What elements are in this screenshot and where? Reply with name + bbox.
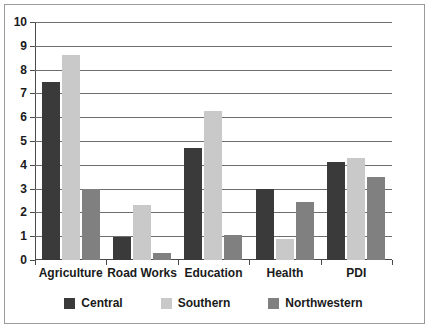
legend-item-northwestern[interactable]: Northwestern: [268, 297, 362, 309]
y-axis-tick-label: 9: [20, 40, 27, 52]
chart-legend: CentralSouthernNorthwestern: [35, 297, 392, 309]
bar-group-bars: [35, 22, 106, 260]
x-axis-tick: [106, 260, 107, 265]
bar-northwestern[interactable]: [153, 253, 171, 260]
legend-swatch-icon: [268, 298, 279, 309]
x-axis-tick: [392, 260, 393, 265]
bar-northwestern[interactable]: [296, 202, 314, 260]
chart-frame: 012345678910 AgricultureRoad WorksEducat…: [4, 4, 425, 324]
bar-central[interactable]: [113, 237, 131, 260]
bar-group-bars: [249, 22, 320, 260]
bar-central[interactable]: [184, 148, 202, 260]
legend-item-label: Southern: [178, 297, 231, 309]
y-axis-tick-label: 0: [20, 254, 27, 266]
bar-central[interactable]: [327, 162, 345, 260]
bar-group: PDI: [321, 22, 392, 260]
bar-central[interactable]: [42, 82, 60, 261]
bar-northwestern[interactable]: [224, 235, 242, 260]
legend-item-southern[interactable]: Southern: [161, 297, 231, 309]
x-axis-label: Education: [184, 267, 242, 279]
bar-northwestern[interactable]: [82, 189, 100, 260]
y-axis-tick-label: 7: [20, 87, 27, 99]
bar-southern[interactable]: [347, 158, 365, 260]
legend-item-label: Central: [81, 297, 122, 309]
x-axis-tick: [178, 260, 179, 265]
x-axis-tick: [321, 260, 322, 265]
y-axis-tick-label: 10: [14, 16, 27, 28]
legend-item-central[interactable]: Central: [64, 297, 122, 309]
y-axis-tick-label: 1: [20, 230, 27, 242]
plot-region: 012345678910 AgricultureRoad WorksEducat…: [35, 22, 392, 260]
x-axis-label: Agriculture: [39, 267, 103, 279]
x-axis-label: PDI: [346, 267, 366, 279]
bar-central[interactable]: [256, 189, 274, 260]
y-axis-tick-label: 6: [20, 111, 27, 123]
bar-group: Agriculture: [35, 22, 106, 260]
legend-swatch-icon: [161, 298, 172, 309]
y-axis-tick-label: 3: [20, 183, 27, 195]
y-axis-tick-label: 5: [20, 135, 27, 147]
bar-group-bars: [106, 22, 177, 260]
bar-northwestern[interactable]: [367, 177, 385, 260]
x-axis-label: Road Works: [107, 267, 177, 279]
y-axis-tick-label: 2: [20, 206, 27, 218]
legend-item-label: Northwestern: [285, 297, 362, 309]
x-axis-tick: [35, 260, 36, 265]
x-axis-label: Health: [267, 267, 304, 279]
bar-group-bars: [178, 22, 249, 260]
bar-southern[interactable]: [204, 111, 222, 260]
bar-southern[interactable]: [276, 239, 294, 260]
bar-southern[interactable]: [133, 205, 151, 260]
bar-group-bars: [321, 22, 392, 260]
y-axis-tick-label: 4: [20, 159, 27, 171]
bar-group: Health: [249, 22, 320, 260]
bar-southern[interactable]: [62, 55, 80, 260]
legend-swatch-icon: [64, 298, 75, 309]
bar-group: Education: [178, 22, 249, 260]
bar-group: Road Works: [106, 22, 177, 260]
x-axis-tick: [249, 260, 250, 265]
y-axis-tick-label: 8: [20, 64, 27, 76]
